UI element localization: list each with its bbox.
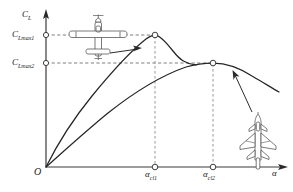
tick-markers bbox=[43, 32, 215, 170]
y-tick-label-clmax1: CLmax1 bbox=[12, 29, 34, 41]
jet-fighter-topview-icon bbox=[240, 112, 276, 169]
tick-marker-clmax1 bbox=[43, 32, 48, 37]
jet-annotation-arrow bbox=[233, 70, 253, 112]
x-tick-label-alpha-cl2: αcl2 bbox=[203, 169, 215, 181]
peak-marker-curve1 bbox=[152, 32, 158, 38]
y-axis-label: CL bbox=[22, 9, 31, 21]
x-axis-label: α bbox=[272, 168, 277, 178]
peak-marker-curve2 bbox=[210, 60, 216, 66]
guide-lines bbox=[46, 35, 214, 166]
jet-fighter-lift-curve bbox=[46, 63, 279, 167]
tick-marker-clmax2 bbox=[43, 60, 48, 65]
propeller-plane-topview-icon bbox=[69, 15, 127, 61]
origin-label: O bbox=[34, 166, 41, 177]
lift-coefficient-vs-angle-of-attack-chart bbox=[0, 0, 293, 192]
x-tick-label-alpha-cl1: αcl1 bbox=[145, 169, 157, 181]
y-tick-label-clmax2: CLmax2 bbox=[12, 57, 34, 69]
